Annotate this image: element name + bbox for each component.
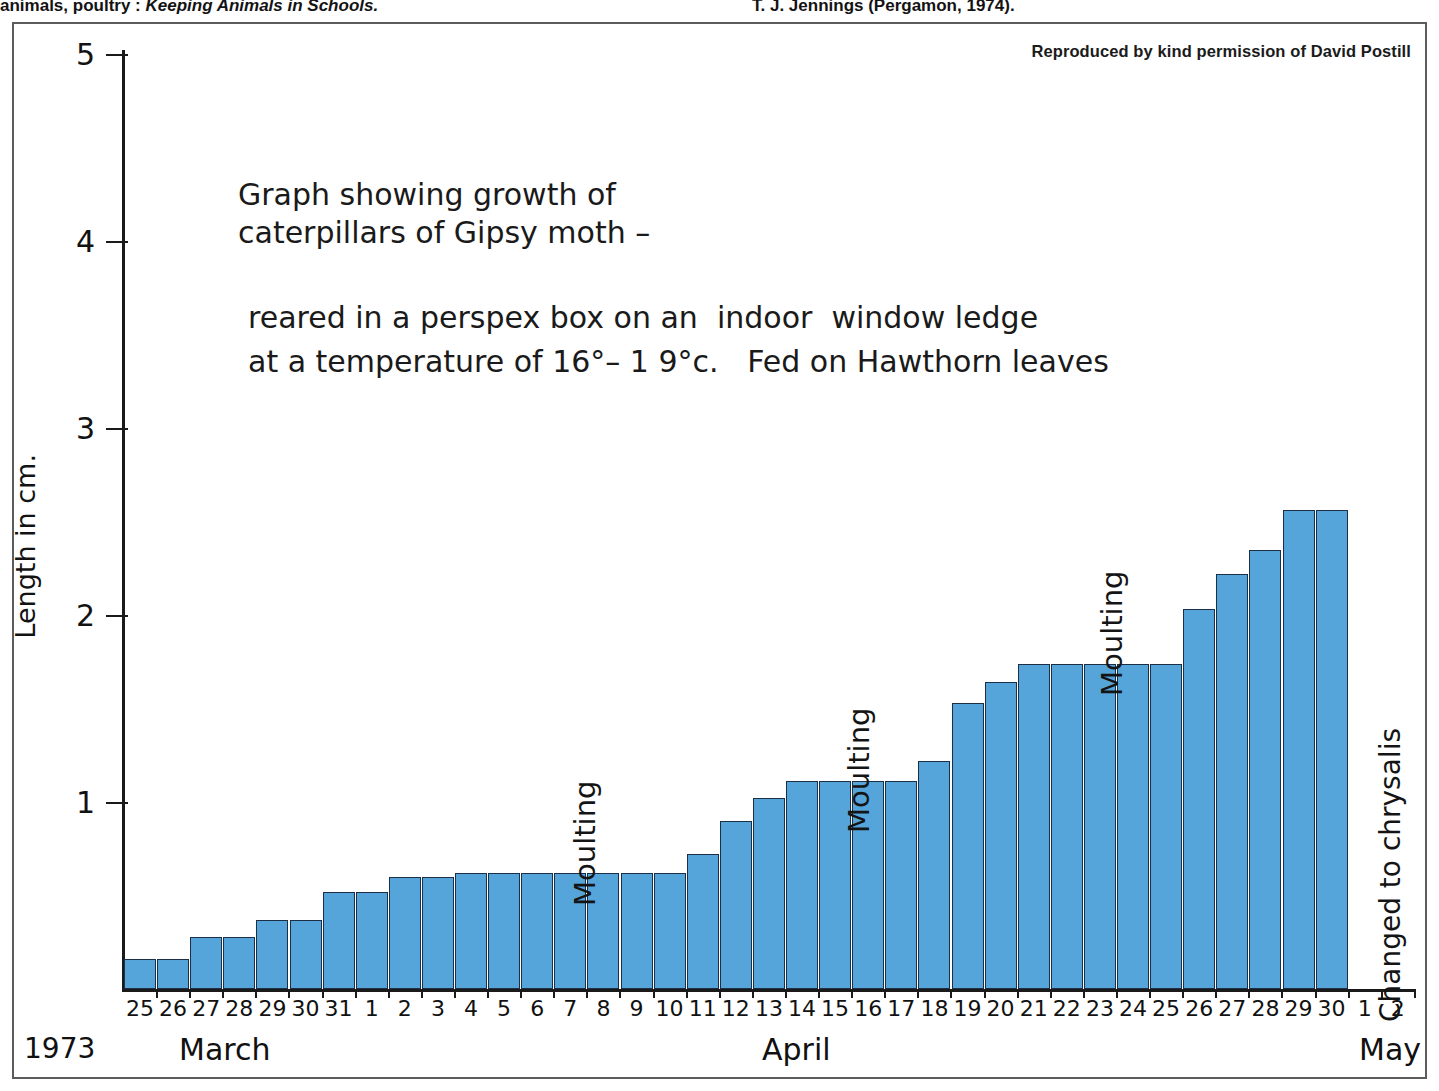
bar — [124, 959, 156, 989]
bar — [455, 873, 487, 989]
bar — [1216, 574, 1248, 989]
y-axis-title: Length in cm. — [10, 454, 41, 639]
bar — [223, 937, 255, 989]
moulting-label-1: Moulting — [568, 781, 602, 906]
source-citation-right: T. J. Jennings (Pergamon, 1974). — [752, 0, 1015, 16]
bar — [654, 873, 686, 989]
bar — [687, 854, 719, 989]
y-axis-tick-label: 2 — [76, 598, 95, 633]
y-axis-tick-label: 5 — [76, 37, 95, 72]
bar — [952, 703, 984, 989]
bar — [356, 892, 388, 989]
source-citation: animals, poultry : Keeping Animals in Sc… — [0, 0, 1439, 18]
bar-series — [124, 24, 1414, 989]
moulting-label-2: Moulting — [842, 708, 876, 833]
bar — [621, 873, 653, 989]
x-axis-tick-labels: 2526272829303112345678910111213141516171… — [124, 996, 1414, 1030]
y-axis-tick-label: 4 — [76, 224, 95, 259]
bar — [521, 873, 553, 989]
bar — [1150, 664, 1182, 989]
bar — [1249, 550, 1281, 989]
x-axis-line — [122, 989, 1414, 992]
bar — [1051, 664, 1083, 989]
month-label-april: April — [762, 1032, 831, 1067]
y-axis-tick-label: 1 — [76, 785, 95, 820]
annotation-conditions: reared in a perspex box on an indoor win… — [248, 296, 1109, 384]
month-label-march: March — [179, 1032, 270, 1067]
bar — [918, 761, 950, 989]
bar — [1183, 609, 1215, 989]
bar — [488, 873, 520, 989]
bar — [290, 920, 322, 989]
bar — [190, 937, 222, 989]
source-citation-left: animals, poultry : Keeping Animals in Sc… — [0, 0, 378, 16]
bar — [389, 877, 421, 989]
month-label-may: May — [1359, 1032, 1421, 1067]
bar — [1117, 664, 1149, 989]
y-axis-tick-label: 3 — [76, 411, 95, 446]
bar — [1018, 664, 1050, 989]
figure-frame: Reproduced by kind permission of David P… — [12, 22, 1427, 1079]
bar — [157, 959, 189, 989]
bar — [1316, 510, 1348, 989]
bar — [885, 781, 917, 989]
bar — [786, 781, 818, 989]
bar — [753, 798, 785, 989]
chrysalis-label: Changed to chrysalis — [1374, 728, 1407, 1022]
bar — [985, 682, 1017, 989]
bar — [1084, 664, 1116, 989]
bar — [1283, 510, 1315, 989]
year-label: 1973 — [24, 1032, 95, 1065]
annotation-title: Graph showing growth of caterpillars of … — [238, 176, 650, 252]
bar — [422, 877, 454, 989]
moulting-label-3: Moulting — [1095, 571, 1129, 696]
bar — [256, 920, 288, 989]
bar — [323, 892, 355, 989]
bar — [720, 821, 752, 989]
